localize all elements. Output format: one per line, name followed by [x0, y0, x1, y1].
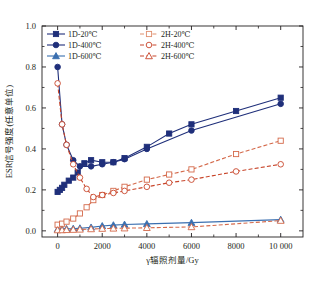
chart-legend: 1D-20℃2H-20℃1D-400℃2H-400℃1D-600℃2H-600℃ [47, 30, 194, 61]
legend-marker [146, 42, 152, 48]
data-point [189, 177, 195, 183]
data-point [64, 142, 70, 148]
data-point [91, 194, 97, 200]
data-point [59, 122, 65, 128]
legend-label: 2H-400℃ [161, 41, 194, 50]
data-point [233, 169, 239, 175]
data-point [77, 164, 83, 170]
data-point [167, 131, 172, 136]
legend-label: 1D-20℃ [68, 30, 97, 39]
y-tick-label: 0.0 [25, 226, 36, 236]
y-tick-label: 0.4 [25, 144, 36, 154]
data-point [99, 192, 105, 198]
legend-marker [53, 31, 58, 36]
data-point [84, 186, 90, 192]
x-tick-label: 10 000 [269, 241, 292, 251]
x-axis-title: γ辐照剂量/Gy [145, 255, 199, 265]
y-tick-label: 1.0 [25, 21, 36, 31]
series-2h-600 [54, 217, 284, 233]
chart-container: 0200040006000800010 0000.00.20.40.60.81.… [0, 0, 322, 281]
data-point [71, 216, 76, 221]
y-axis-title: ESR信号强度(任意单位) [4, 85, 14, 178]
y-tick-label: 0.8 [25, 62, 36, 72]
legend-marker [53, 42, 59, 48]
x-tick-label: 8000 [228, 241, 245, 251]
data-point [144, 146, 150, 152]
y-tick-label: 0.6 [25, 103, 36, 113]
data-point [122, 188, 128, 194]
data-point [278, 101, 284, 107]
data-point [189, 122, 194, 127]
series-1d-400 [55, 64, 284, 169]
data-point [84, 205, 89, 210]
x-tick-label: 4000 [138, 241, 155, 251]
data-point [144, 177, 149, 182]
data-point [233, 108, 238, 113]
data-point [189, 167, 194, 172]
series-line [58, 67, 281, 166]
data-point [111, 190, 117, 196]
y-tick-label: 0.2 [25, 185, 36, 195]
data-point [55, 81, 61, 87]
data-point [77, 175, 83, 181]
legend-label: 1D-600℃ [68, 52, 101, 61]
data-point [55, 64, 61, 70]
legend-label: 1D-400℃ [68, 41, 101, 50]
data-point [88, 164, 94, 170]
data-point [278, 161, 284, 167]
x-tick-label: 6000 [183, 241, 200, 251]
data-point [77, 211, 82, 216]
data-point [122, 156, 128, 162]
data-point [278, 138, 283, 143]
x-tick-label: 0 [55, 241, 59, 251]
esr-dose-response-chart: 0200040006000800010 0000.00.20.40.60.81.… [0, 0, 322, 281]
data-point [167, 172, 172, 177]
data-point [88, 158, 93, 163]
x-tick-label: 2000 [94, 241, 111, 251]
data-point [166, 180, 172, 186]
data-point [189, 128, 195, 134]
data-point [233, 151, 238, 156]
legend-label: 2H-600℃ [161, 52, 194, 61]
data-point [70, 161, 76, 167]
legend-marker [146, 31, 151, 36]
data-point [71, 175, 76, 180]
data-point [99, 161, 105, 167]
data-point [278, 95, 283, 100]
legend-label: 2H-20℃ [161, 30, 190, 39]
data-point [111, 159, 117, 165]
data-point [64, 219, 69, 224]
data-point [144, 184, 150, 190]
series-line [58, 98, 281, 192]
